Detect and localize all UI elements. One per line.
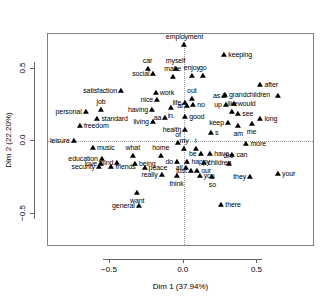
point-label: home [152, 144, 169, 152]
x-tick-label: −0.5 [101, 265, 117, 274]
data-point [168, 104, 174, 109]
data-point [235, 110, 241, 115]
point-label: myself [166, 57, 186, 65]
point-label: really [141, 171, 157, 179]
point-label: can [236, 151, 247, 159]
data-point [257, 82, 263, 87]
point-label: living [133, 118, 148, 126]
data-point [136, 203, 142, 208]
point-label: employment [166, 34, 203, 41]
point-label: me [247, 128, 257, 136]
point-label: am [234, 130, 244, 138]
data-point [188, 168, 194, 173]
y-axis-title: Dim 2 (22.20%) [4, 112, 13, 168]
data-point [149, 107, 155, 112]
y-tick-mark [30, 213, 34, 214]
point-label: your [282, 170, 295, 178]
point-label: are [224, 152, 234, 160]
plot-area: employmentkeepingcarmyselfsocialmakeenjo… [48, 34, 313, 245]
data-point [158, 153, 164, 158]
point-label: in. [168, 112, 175, 120]
x-axis-title: Dim 1 (37.94%) [153, 282, 209, 291]
point-label: job [97, 98, 106, 106]
point-label: freedom [84, 122, 109, 130]
y-tick-mark [30, 68, 34, 69]
data-point [189, 96, 195, 101]
data-point [71, 137, 77, 142]
point-label: car [143, 57, 152, 65]
data-point [190, 102, 196, 107]
data-point [208, 130, 214, 135]
point-label: go [199, 64, 207, 72]
data-point [221, 93, 227, 98]
point-label: more [250, 140, 266, 148]
data-point [257, 116, 263, 121]
point-label: up [214, 101, 222, 109]
point-label: would [238, 100, 256, 108]
data-point [130, 153, 136, 158]
point-label: keeping [228, 51, 252, 59]
x-tick-mark [109, 259, 110, 263]
data-point [142, 165, 148, 170]
point-label: s [215, 129, 218, 137]
data-point [209, 174, 215, 179]
data-point [184, 158, 190, 163]
point-label: friends [115, 163, 135, 171]
data-point [98, 107, 104, 112]
data-point [153, 90, 159, 95]
point-label: music [97, 144, 115, 152]
data-point [243, 141, 249, 146]
data-point [174, 173, 180, 178]
data-point [182, 126, 188, 131]
point-label: after [264, 81, 278, 89]
y-tick-mark [30, 140, 34, 141]
data-point [221, 52, 227, 57]
point-label: i [195, 137, 196, 145]
point-label: good [189, 113, 204, 121]
point-label: what [126, 144, 140, 152]
data-point [134, 190, 140, 195]
point-label: make [164, 65, 181, 73]
point-label: satisfaction [83, 87, 117, 95]
point-label: general [112, 202, 135, 210]
point-label: out [187, 87, 196, 95]
data-point [94, 116, 100, 121]
data-point [77, 123, 83, 128]
data-point [225, 120, 231, 125]
point-label: long [264, 115, 277, 123]
scatter-plot-figure: employmentkeepingcarmyselfsocialmakeenjo… [0, 0, 323, 306]
data-point [181, 42, 187, 47]
data-point [108, 164, 114, 169]
y-tick-label: −0.5 [18, 205, 27, 221]
data-point [200, 73, 206, 78]
data-point [247, 174, 253, 179]
point-label: enjoy [184, 64, 200, 72]
point-label: at [177, 102, 183, 110]
x-tick-label: 0.0 [177, 265, 188, 274]
plot-frame: employmentkeepingcarmyselfsocialmakeenjo… [47, 33, 314, 246]
data-point [96, 164, 102, 169]
data-point [182, 113, 188, 118]
data-point [150, 119, 156, 124]
data-point [90, 145, 96, 150]
data-point [154, 97, 160, 102]
data-point [235, 123, 241, 128]
x-tick-mark [183, 259, 184, 263]
data-point [184, 103, 190, 108]
data-point [207, 150, 213, 155]
y-axis-line [34, 62, 35, 219]
data-point [170, 74, 176, 79]
data-point [83, 109, 89, 114]
data-point [118, 88, 124, 93]
point-label: nice [141, 96, 153, 104]
point-label: my [179, 137, 188, 145]
data-point [218, 202, 224, 207]
point-label: like [227, 100, 237, 108]
x-tick-mark [256, 259, 257, 263]
y-tick-label: 0.0 [18, 135, 27, 146]
point-label: there [225, 201, 240, 209]
point-label: leisure [50, 137, 70, 145]
point-label: they [233, 173, 246, 181]
point-label: personal [56, 108, 82, 116]
data-point [275, 93, 281, 98]
